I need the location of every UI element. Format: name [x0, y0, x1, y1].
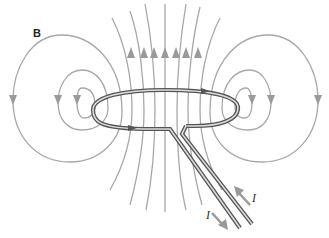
arrow-down-icon	[248, 95, 256, 105]
arrow-down-icon	[267, 95, 275, 105]
current-label-out: I	[205, 208, 211, 222]
arrow-up-icon	[140, 47, 148, 58]
arrow-up-icon	[172, 47, 180, 58]
arrow-up-icon	[182, 47, 190, 58]
arrow-up-icon	[161, 47, 169, 58]
arrow-down-icon	[9, 95, 17, 105]
field-label-b: B	[33, 27, 41, 39]
center-line	[145, 4, 155, 210]
arrow-down-icon	[54, 95, 62, 105]
arrow-up-icon	[194, 47, 202, 58]
current-loop-field-diagram: B I I	[0, 0, 329, 238]
arrow-down-icon	[314, 95, 322, 105]
center-line	[110, 18, 132, 190]
arrow-down-icon	[73, 95, 81, 105]
arrow-up-icon	[127, 47, 135, 58]
current-label-in: I	[251, 191, 257, 205]
current-arrows	[212, 186, 250, 230]
center-line	[177, 4, 186, 210]
wire-lead-out-core	[182, 126, 252, 224]
current-loop-wire	[93, 88, 252, 228]
